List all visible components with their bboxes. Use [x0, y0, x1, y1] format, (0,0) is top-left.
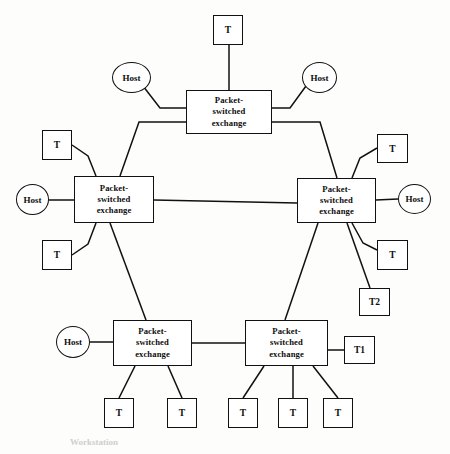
terminal-t1-label: T1 — [354, 345, 365, 355]
exchange-top[interactable]: Packet-switchedexchange — [186, 90, 272, 134]
link-br-terminal-3 — [313, 366, 338, 398]
host-bottom-left-label: Host — [64, 337, 82, 347]
exchange-left[interactable]: Packet-switchedexchange — [74, 176, 154, 223]
exchange-right[interactable]: Packet-switchedexchange — [297, 178, 376, 223]
host-top-left-label: Host — [123, 73, 141, 83]
terminal-top-label: T — [225, 25, 231, 35]
host-bottom-left[interactable]: Host — [56, 326, 90, 358]
link-right-host — [376, 199, 398, 200]
link-right-to-t2 — [347, 223, 370, 288]
terminal-br-2-label: T — [290, 408, 296, 418]
link-left-terminal-upper — [72, 145, 96, 176]
link-top-to-left-trunk — [120, 122, 186, 176]
host-right-label: Host — [406, 194, 424, 204]
terminal-t2-label: T2 — [369, 297, 380, 307]
exchange-top-label: Packet-switchedexchange — [212, 95, 247, 129]
terminal-br-1-label: T — [240, 408, 246, 418]
link-br-terminal-1 — [243, 366, 264, 398]
terminal-bl-1-label: T — [116, 408, 122, 418]
terminal-t2[interactable]: T2 — [359, 288, 390, 316]
terminal-t1[interactable]: T1 — [344, 336, 375, 364]
terminal-bl-2-label: T — [179, 408, 185, 418]
host-left-label: Host — [24, 195, 42, 205]
link-left-to-bottom-left — [110, 223, 146, 320]
terminal-left-upper[interactable]: T — [42, 130, 72, 160]
terminal-left-upper-label: T — [54, 140, 60, 150]
link-bl-terminal-1 — [119, 366, 135, 398]
terminal-bl-2[interactable]: T — [167, 398, 197, 428]
terminal-right-upper[interactable]: T — [377, 134, 408, 163]
link-left-to-right-trunk — [154, 200, 297, 203]
terminal-br-3-label: T — [335, 408, 341, 418]
terminal-br-2[interactable]: T — [278, 398, 308, 428]
connection-lines-layer — [0, 0, 450, 454]
exchange-right-label: Packet-switchedexchange — [319, 184, 354, 218]
terminal-br-1[interactable]: T — [228, 398, 258, 428]
exchange-bottom-left[interactable]: Packet-switchedexchange — [113, 320, 192, 366]
terminal-right-lower-label: T — [389, 250, 395, 260]
host-left[interactable]: Host — [16, 184, 49, 215]
exchange-left-label: Packet-switchedexchange — [97, 183, 132, 217]
exchange-bottom-right[interactable]: Packet-switchedexchange — [245, 320, 328, 366]
terminal-bl-1[interactable]: T — [104, 398, 134, 428]
figure-caption: Workstation — [70, 437, 400, 447]
terminal-left-lower[interactable]: T — [42, 240, 72, 270]
link-top-host-left — [143, 86, 186, 108]
host-top-right[interactable]: Host — [302, 62, 337, 93]
exchange-bottom-right-label: Packet-switchedexchange — [269, 326, 304, 360]
link-left-terminal-lower — [72, 223, 96, 255]
network-diagram-canvas: Packet-switchedexchangePacket-switchedex… — [0, 0, 450, 454]
host-top-left[interactable]: Host — [112, 62, 151, 93]
terminal-right-upper-label: T — [389, 144, 395, 154]
exchange-bottom-left-label: Packet-switchedexchange — [135, 326, 170, 360]
terminal-br-3[interactable]: T — [323, 398, 353, 428]
link-top-to-right-trunk — [272, 122, 337, 178]
terminal-top[interactable]: T — [213, 15, 243, 45]
link-right-terminal-upper — [352, 148, 377, 178]
link-top-host-right — [272, 86, 306, 108]
host-right[interactable]: Host — [398, 184, 431, 214]
terminal-left-lower-label: T — [54, 250, 60, 260]
terminal-right-lower[interactable]: T — [377, 240, 408, 270]
host-top-right-label: Host — [311, 73, 329, 83]
link-right-to-bottom-right — [285, 223, 318, 320]
link-bl-terminal-2 — [168, 366, 182, 398]
